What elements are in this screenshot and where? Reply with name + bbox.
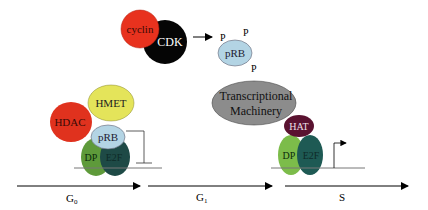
hdac-label: HDAC <box>54 116 85 128</box>
e2f-right-label: E2F <box>303 150 320 161</box>
hmet-label: HMET <box>95 97 126 109</box>
prb-bound-label: pRB <box>98 131 118 143</box>
hat-label: HAT <box>289 121 308 132</box>
phosphate-label-1: P <box>220 32 226 43</box>
cell-cycle-diagram: cyclin CDK pRB P P P HMET HDAC DP E2F pR… <box>0 0 428 210</box>
g1-label: G1 <box>196 191 208 205</box>
phosphorylated-prb: pRB P P P <box>218 27 257 74</box>
phosphate-label-3: P <box>251 63 257 74</box>
transcriptional-machinery-label-2: Machinery <box>230 104 282 118</box>
cyclin-label: cyclin <box>127 23 154 35</box>
phase-timeline: G0 G1 S <box>17 186 408 206</box>
prb-phos-label: pRB <box>225 47 245 59</box>
s-label: S <box>339 191 345 203</box>
cyclin-cdk-complex: cyclin CDK <box>121 10 187 64</box>
transcription-start-arrow <box>334 143 346 168</box>
cdk-label: CDK <box>157 35 183 49</box>
phosphate-label-2: P <box>243 27 249 38</box>
repressor-complex: HMET HDAC DP E2F pRB <box>50 85 162 176</box>
dp-right-label: DP <box>283 150 296 161</box>
e2f-left-label: E2F <box>106 152 123 163</box>
transcriptional-machinery-node <box>212 81 296 125</box>
transcriptional-machinery-label-1: Transcriptional <box>220 89 294 103</box>
g0-label: G0 <box>66 192 78 206</box>
dp-left-label: DP <box>85 152 98 163</box>
activator-complex: Transcriptional Machinery DP E2F HAT <box>212 81 365 175</box>
